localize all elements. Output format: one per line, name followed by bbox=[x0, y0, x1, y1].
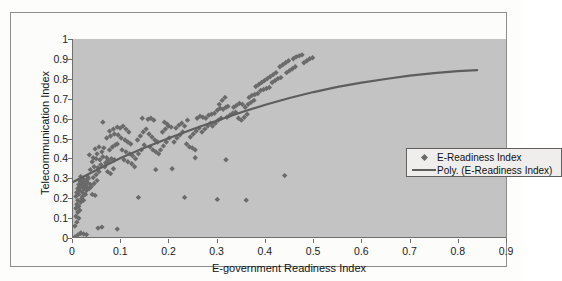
scatter-point bbox=[90, 159, 95, 164]
scatter-point bbox=[171, 139, 176, 144]
scatter-point bbox=[87, 152, 92, 157]
scatter-point bbox=[223, 157, 228, 162]
legend-diamond-marker-icon bbox=[411, 155, 437, 160]
scatter-point bbox=[111, 166, 116, 171]
legend-label-scatter: E-Readiness Index bbox=[437, 152, 522, 163]
scatter-series-e-readiness-index bbox=[73, 52, 315, 237]
legend-item-trendline: Poly. (E-Readiness Index) bbox=[411, 164, 561, 176]
plot-area: E-Readiness Index Poly. (E-Readiness Ind… bbox=[72, 39, 506, 238]
plot-svg bbox=[73, 39, 506, 237]
legend-label-trendline: Poly. (E-Readiness Index) bbox=[437, 165, 552, 176]
legend-item-scatter: E-Readiness Index bbox=[411, 151, 561, 163]
y-axis-ticks: 00.10.20.30.40.50.60.70.80.91 bbox=[19, 39, 68, 238]
x-tick-label: 0.4 bbox=[245, 245, 285, 257]
scatter-point bbox=[169, 166, 174, 171]
scatter-point bbox=[282, 173, 287, 178]
y-tick-label: 0.2 bbox=[24, 193, 68, 203]
x-tick-mark bbox=[168, 239, 169, 243]
scatter-point bbox=[94, 151, 99, 156]
y-tick-label: 0.6 bbox=[24, 114, 68, 124]
x-tick-label: 0.3 bbox=[197, 245, 237, 257]
x-tick-mark bbox=[506, 239, 507, 243]
scatter-point bbox=[185, 117, 190, 122]
x-tick-label: 0 bbox=[52, 245, 92, 257]
x-tick-mark bbox=[217, 239, 218, 243]
x-tick-label: 0.2 bbox=[148, 245, 188, 257]
x-tick-mark bbox=[72, 239, 73, 243]
scatter-point bbox=[136, 195, 141, 200]
x-tick-mark bbox=[361, 239, 362, 243]
scatter-point bbox=[115, 226, 120, 231]
y-tick-label: 0.5 bbox=[24, 134, 68, 144]
x-axis-ticks: 00.10.20.30.40.50.60.70.80.9 bbox=[72, 239, 506, 261]
scatter-point bbox=[138, 133, 143, 138]
y-tick-label: 0 bbox=[24, 233, 68, 243]
x-tick-label: 0.1 bbox=[100, 245, 140, 257]
x-tick-mark bbox=[120, 239, 121, 243]
scatter-point bbox=[140, 116, 145, 121]
legend: E-Readiness Index Poly. (E-Readiness Ind… bbox=[406, 148, 562, 177]
y-tick-label: 0.7 bbox=[24, 94, 68, 104]
scatter-point bbox=[153, 167, 158, 172]
x-tick-mark bbox=[313, 239, 314, 243]
x-tick-mark bbox=[458, 239, 459, 243]
scatter-point bbox=[99, 224, 104, 229]
x-tick-mark bbox=[265, 239, 266, 243]
scatter-point bbox=[100, 119, 105, 124]
x-axis-title: E-government Readiness Index bbox=[72, 262, 506, 274]
x-tick-mark bbox=[410, 239, 411, 243]
scatter-point bbox=[193, 155, 198, 160]
y-tick-label: 0.1 bbox=[24, 213, 68, 223]
y-tick-label: 0.8 bbox=[24, 74, 68, 84]
scatter-point bbox=[215, 197, 220, 202]
x-tick-label: 0.7 bbox=[390, 245, 430, 257]
scatter-point bbox=[135, 137, 140, 142]
chart-frame: Telecommunication Index 00.10.20.30.40.5… bbox=[10, 12, 507, 267]
scatter-point bbox=[91, 164, 96, 169]
scatter-point bbox=[161, 143, 166, 148]
y-tick-label: 0.9 bbox=[24, 54, 68, 64]
scatter-point bbox=[95, 225, 100, 230]
x-tick-label: 0.6 bbox=[341, 245, 381, 257]
y-tick-label: 1 bbox=[24, 34, 68, 44]
y-tick-label: 0.4 bbox=[24, 153, 68, 163]
legend-line-marker-icon bbox=[411, 169, 437, 171]
scatter-point bbox=[182, 195, 187, 200]
scatter-point bbox=[217, 102, 222, 107]
x-tick-label: 0.8 bbox=[438, 245, 478, 257]
y-tick-label: 0.3 bbox=[24, 173, 68, 183]
scatter-point bbox=[244, 197, 249, 202]
x-tick-label: 0.9 bbox=[486, 245, 526, 257]
x-tick-label: 0.5 bbox=[293, 245, 333, 257]
